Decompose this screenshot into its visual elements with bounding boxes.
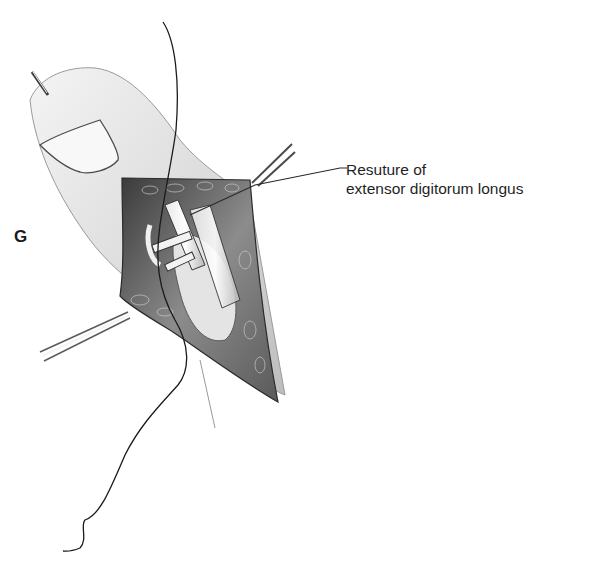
annotation-line-2: extensor digitorum longus bbox=[346, 179, 524, 198]
annotation-line-1: Resuture of bbox=[346, 160, 524, 179]
toe-surgery-drawing bbox=[0, 0, 613, 567]
incision-wound bbox=[120, 178, 278, 402]
retractor-lower bbox=[40, 312, 130, 361]
retractor-upper bbox=[252, 144, 295, 186]
surgical-illustration-figure: G Resuture of extensor digitorum longus bbox=[0, 0, 613, 567]
panel-letter: G bbox=[14, 227, 27, 247]
annotation-label: Resuture of extensor digitorum longus bbox=[346, 160, 524, 198]
